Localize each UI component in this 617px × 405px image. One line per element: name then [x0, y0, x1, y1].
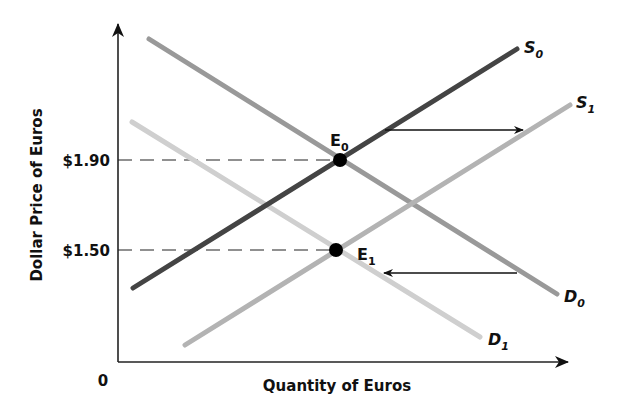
label-e0: E0 [330, 131, 349, 154]
equilibrium-point-e0 [333, 153, 347, 167]
supply-curve-s0 [133, 49, 517, 288]
y-tick-1-90: $1.90 [63, 152, 110, 170]
label-s0: S0 [524, 38, 544, 61]
origin-label: 0 [98, 372, 108, 390]
y-axis-label: Dollar Price of Euros [28, 108, 46, 281]
y-tick-1-50: $1.50 [63, 242, 110, 260]
demand-curve-d1 [132, 122, 480, 337]
label-s1: S1 [576, 93, 595, 116]
label-d0: D0 [564, 287, 585, 310]
equilibrium-point-e1 [329, 243, 343, 257]
label-d1: D1 [488, 330, 509, 353]
supply-curve-s1 [185, 105, 570, 345]
chart-canvas: $1.90 $1.50 0 Quantity of Euros Dollar P… [0, 0, 617, 405]
x-axis-label: Quantity of Euros [263, 377, 411, 395]
